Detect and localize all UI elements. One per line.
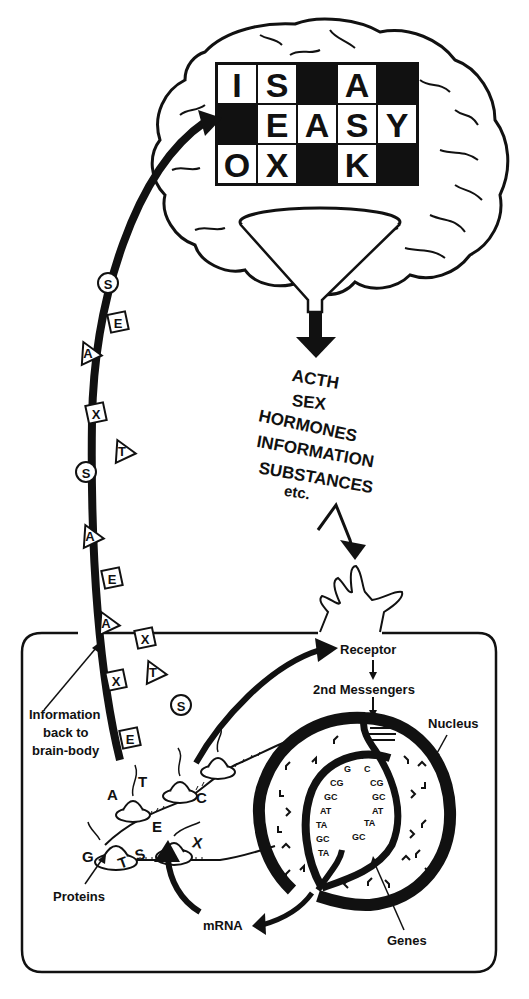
svg-text:A: A	[101, 616, 111, 631]
hormone-output-text: ACTH SEX HORMONES INFORMATION SUBSTANCES…	[255, 366, 375, 502]
svg-text:X: X	[112, 674, 121, 689]
crossword-letter: X	[266, 146, 289, 184]
svg-text:S: S	[82, 466, 91, 481]
crossword-letter: S	[346, 106, 369, 144]
base-pair-label: TA	[318, 848, 330, 858]
crossword-letter: I	[232, 66, 241, 104]
info-back-label-line2: back to	[43, 725, 89, 740]
base-pair-label: TA	[316, 820, 328, 830]
protein-letter: C	[196, 789, 207, 806]
protein-letter: T	[138, 773, 147, 790]
output-line-acth: ACTH	[291, 366, 341, 393]
second-messengers-label: 2nd Messengers	[313, 682, 415, 697]
pathway-token-square: X	[134, 627, 155, 648]
info-back-label-line3: brain-body	[32, 743, 100, 758]
svg-text:E: E	[108, 572, 117, 587]
svg-text:E: E	[114, 316, 123, 331]
base-pair-label: GC	[372, 792, 386, 802]
svg-text:S: S	[177, 699, 186, 714]
base-pair-label: AT	[320, 806, 332, 816]
lightning-arrow-icon	[318, 505, 366, 560]
svg-text:A: A	[85, 529, 95, 544]
mrna-label: mRNA	[203, 918, 243, 933]
svg-text:E: E	[126, 732, 135, 747]
svg-text:T: T	[118, 444, 126, 459]
pathway-token-circle: S	[76, 462, 96, 482]
svg-text:A: A	[83, 346, 93, 361]
pathway-token-triangle: T	[107, 435, 135, 462]
crossword-black-cell	[378, 65, 416, 103]
pathway-token-circle: S	[98, 273, 118, 293]
pathway-token-square: E	[101, 567, 122, 588]
output-line-etc: etc.	[283, 482, 311, 502]
output-line-sex: SEX	[291, 391, 327, 414]
protein-letter: X	[191, 833, 204, 851]
crossword-black-cell	[298, 65, 336, 103]
svg-text:S: S	[104, 277, 113, 292]
base-pair-label: G	[344, 764, 351, 774]
base-pair-label: GC	[316, 834, 330, 844]
pathway-token-square: X	[105, 669, 126, 690]
pathway-token-circle: S	[171, 695, 191, 715]
pathway-token-square: E	[119, 727, 140, 748]
crossword-letter: S	[266, 66, 289, 104]
base-pair-label: GC	[324, 792, 338, 802]
base-pair-label: CG	[330, 778, 344, 788]
base-pair-label: C	[364, 764, 371, 774]
pathway-token-triangle: T	[138, 656, 166, 683]
base-pair-label: AT	[372, 806, 384, 816]
proteins-label: Proteins	[53, 889, 105, 904]
protein-letter: E	[152, 818, 162, 835]
crossword-black-cell	[218, 105, 256, 143]
protein-letter: A	[107, 786, 118, 803]
base-pair-label: GC	[352, 832, 366, 842]
diagram-canvas: ISAEASYOXK ACTH SEX HORMONES INFORMATION…	[0, 0, 529, 999]
crossword-letter: A	[345, 66, 370, 104]
crossword-letter: E	[266, 106, 289, 144]
protein-letter: G	[82, 848, 94, 865]
base-pair-label: AT	[354, 751, 366, 761]
pathway-token-square: E	[107, 311, 128, 332]
svg-text:X: X	[92, 407, 101, 422]
hand-icon	[320, 566, 402, 632]
base-pair-label: TA	[364, 818, 376, 828]
nucleus-label: Nucleus	[428, 716, 479, 731]
crossword-black-cell	[298, 145, 336, 183]
genes-label: Genes	[387, 933, 427, 948]
receptor-label: Receptor	[340, 642, 396, 657]
svg-text:T: T	[149, 665, 157, 680]
crossword-grid: ISAEASYOXK	[215, 62, 419, 186]
nucleus: ATGCGGCATTAGCTA CCGGCATTAGC	[259, 718, 450, 905]
crossword-letter: O	[224, 146, 250, 184]
crossword-letter: A	[305, 106, 330, 144]
crossword-letter: K	[345, 146, 370, 184]
crossword-letter: Y	[386, 106, 409, 144]
info-back-label-line1: Information	[29, 707, 101, 722]
pathway-token-square: X	[85, 402, 106, 423]
crossword-black-cell	[378, 145, 416, 183]
svg-text:X: X	[141, 632, 150, 647]
base-pair-label: CG	[370, 778, 384, 788]
